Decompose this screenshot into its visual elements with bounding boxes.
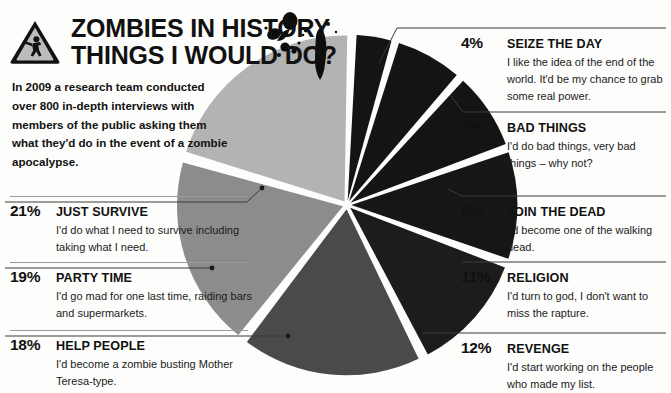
label-title: REVENGE <box>507 343 569 357</box>
percent-value: 7% <box>461 119 507 135</box>
header: ZOMBIES IN HISTORY THINGS I WOULD DO? <box>8 14 337 67</box>
right-label-column-5: 12% REVENGE I'd start working on the peo… <box>461 333 666 393</box>
percent-value: 18% <box>10 337 56 353</box>
right-label-column-3: 8% JOIN THE DEAD I'd become one of the w… <box>461 196 666 256</box>
label-row-revenge[interactable]: 12% REVENGE I'd start working on the peo… <box>461 333 666 393</box>
percent-value: 8% <box>461 203 507 219</box>
title-block: ZOMBIES IN HISTORY THINGS I WOULD DO? <box>71 14 337 67</box>
label-row-party-time[interactable]: 19% PARTY TIME I'd go mad for one last t… <box>10 262 258 322</box>
right-label-column-2: 7% BAD THINGS I'd do bad things, very ba… <box>461 112 666 172</box>
label-desc: I'd become one of the walking dead. <box>507 222 666 256</box>
row-head: 11% RELIGION <box>461 269 666 286</box>
label-desc: I'd do what I need to survive including … <box>56 222 258 256</box>
intro-paragraph: In 2009 a research team conducted over 8… <box>12 78 230 172</box>
divider <box>10 196 248 197</box>
label-row-just-survive[interactable]: 21% JUST SURVIVE I'd do what I need to s… <box>10 196 258 256</box>
label-title: BAD THINGS <box>507 122 586 136</box>
left-label-column-3: 18% HELP PEOPLE I'd become a zombie bust… <box>10 330 258 390</box>
row-head: 18% HELP PEOPLE <box>10 337 258 354</box>
divider <box>10 262 248 263</box>
title-line-1: ZOMBIES IN HISTORY <box>71 16 337 41</box>
label-title: JOIN THE DEAD <box>507 206 606 220</box>
row-head: 12% REVENGE <box>461 340 666 357</box>
label-row-help-people[interactable]: 18% HELP PEOPLE I'd become a zombie bust… <box>10 330 258 390</box>
label-title: RELIGION <box>507 272 569 286</box>
label-row-religion[interactable]: 11% RELIGION I'd turn to god, I don't wa… <box>461 262 666 322</box>
label-row-bad-things[interactable]: 7% BAD THINGS I'd do bad things, very ba… <box>461 112 666 172</box>
label-title: SEIZE THE DAY <box>507 38 602 52</box>
label-desc: I'd turn to god, I don't want to miss th… <box>507 288 666 322</box>
left-label-column-2: 19% PARTY TIME I'd go mad for one last t… <box>10 262 258 322</box>
percent-value: 11% <box>461 269 507 285</box>
label-title: HELP PEOPLE <box>56 340 145 354</box>
label-row-seize-the-day[interactable]: 4% SEIZE THE DAY I like the idea of the … <box>461 28 666 104</box>
percent-value: 12% <box>461 340 507 356</box>
row-head: 4% SEIZE THE DAY <box>461 35 666 52</box>
label-desc: I'd start working on the people who made… <box>507 359 666 393</box>
left-label-column: 21% JUST SURVIVE I'd do what I need to s… <box>10 196 258 256</box>
title-line-2: THINGS I WOULD DO? <box>71 43 337 68</box>
zombie-warning-triangle-icon <box>8 17 62 65</box>
label-desc: I'd do bad things, very bad things – why… <box>507 138 666 172</box>
row-head: 19% PARTY TIME <box>10 269 258 286</box>
percent-value: 19% <box>10 269 56 285</box>
right-label-column-4: 11% RELIGION I'd turn to god, I don't wa… <box>461 262 666 322</box>
label-desc: I like the idea of the end of the world.… <box>507 54 666 104</box>
label-title: JUST SURVIVE <box>56 206 148 220</box>
label-title: PARTY TIME <box>56 272 132 286</box>
percent-value: 4% <box>461 35 507 51</box>
row-head: 21% JUST SURVIVE <box>10 203 258 220</box>
divider <box>10 330 248 331</box>
label-row-join-the-dead[interactable]: 8% JOIN THE DEAD I'd become one of the w… <box>461 196 666 256</box>
label-desc: I'd become a zombie busting Mother Teres… <box>56 356 258 390</box>
right-label-column-1: 4% SEIZE THE DAY I like the idea of the … <box>461 28 666 104</box>
row-head: 7% BAD THINGS <box>461 119 666 136</box>
row-head: 8% JOIN THE DEAD <box>461 203 666 220</box>
percent-value: 21% <box>10 203 56 219</box>
label-desc: I'd go mad for one last time, raiding ba… <box>56 288 258 322</box>
